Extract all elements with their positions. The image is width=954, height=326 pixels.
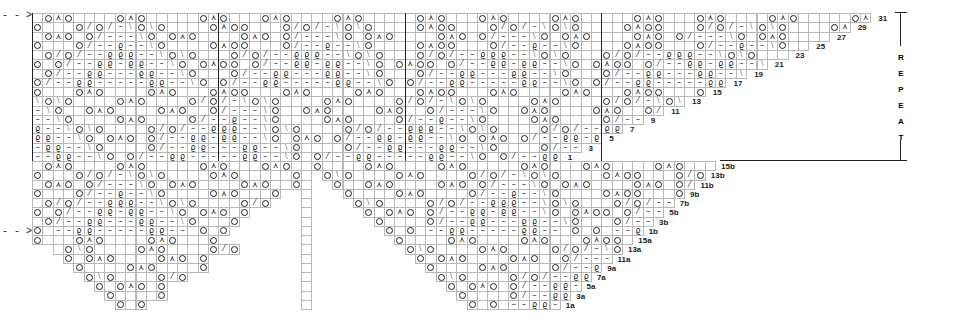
purl-stitch-icon: – — [570, 143, 581, 153]
yarn-over-stitch-icon — [694, 87, 705, 97]
row-label: 13b — [711, 171, 725, 180]
double-decrease-stitch-icon: ⋏ — [839, 22, 850, 32]
yarn-over-stitch-icon — [198, 263, 209, 273]
twisted-stitch-stitch-icon: ϱ — [591, 263, 602, 273]
yarn-over-stitch-icon — [239, 207, 250, 217]
k2tog-stitch-icon: ⁄ — [653, 106, 664, 116]
row-label: 1b — [649, 227, 658, 236]
yarn-over-stitch-icon — [270, 189, 281, 199]
yarn-over-stitch-icon — [136, 300, 147, 310]
row-label: 31 — [878, 14, 887, 23]
knit-stitch-icon — [798, 41, 809, 51]
ssk-stitch-icon: ⧵ — [736, 69, 747, 79]
row-label: 23 — [796, 51, 805, 60]
row-label: 11 — [671, 107, 679, 116]
row-label: 13a — [628, 245, 641, 254]
row-label: 9a — [607, 264, 616, 273]
double-decrease-stitch-icon: ⋏ — [860, 13, 871, 23]
yarn-over-stitch-icon — [229, 244, 240, 254]
row-label: 15a — [638, 236, 651, 245]
row-label: 11a — [618, 255, 631, 264]
repeat-bracket: REPEAT — [895, 12, 907, 160]
row-label: 15 — [713, 88, 722, 97]
repeat-end-rule — [720, 160, 905, 161]
row-label: 5b — [669, 208, 678, 217]
yarn-over-stitch-icon — [260, 198, 271, 208]
yarn-over-stitch-icon — [156, 291, 167, 301]
row-label: 11b — [700, 181, 713, 190]
twisted-stitch-stitch-icon: ϱ — [715, 78, 726, 88]
start-arrow-bottom: - - > — [2, 226, 32, 237]
ssk-stitch-icon: ⧵ — [757, 59, 768, 69]
row-label: 5a — [587, 282, 596, 291]
yarn-over-stitch-icon — [612, 244, 623, 254]
yarn-over-stitch-icon — [177, 272, 188, 282]
k2tog-stitch-icon: ⁄ — [684, 180, 695, 190]
repeat-boundary — [218, 13, 219, 161]
repeat-boundary — [32, 13, 33, 161]
purl-stitch-icon: – — [550, 300, 561, 310]
knit-stitch-icon — [819, 32, 830, 42]
row-label: 7 — [630, 125, 634, 134]
row-label: 15b — [721, 162, 735, 171]
row-label: 25 — [816, 42, 825, 51]
row-label: 3a — [576, 292, 585, 301]
purl-stitch-icon: – — [570, 281, 581, 291]
knit-stitch-icon — [705, 161, 716, 171]
purl-stitch-icon: – — [601, 254, 612, 264]
twisted-stitch-stitch-icon: ϱ — [612, 124, 623, 134]
row-label: 13 — [692, 97, 701, 106]
ssk-stitch-icon: ⧵ — [674, 96, 685, 106]
purl-stitch-icon: – — [643, 217, 654, 227]
yarn-over-stitch-icon — [218, 226, 229, 236]
knit-stitch-icon — [301, 300, 312, 310]
row-label: 7b — [680, 199, 689, 208]
repeat-label: REPEAT — [895, 50, 907, 146]
yarn-over-stitch-icon — [229, 217, 240, 227]
purl-stitch-icon: – — [653, 207, 664, 217]
purl-stitch-icon: – — [632, 115, 643, 125]
row-label: 3b — [659, 218, 668, 227]
repeat-boundary — [405, 13, 406, 161]
repeat-arrow-up — [900, 12, 901, 46]
twisted-stitch-stitch-icon: ϱ — [632, 226, 643, 236]
yarn-over-stitch-icon — [694, 170, 705, 180]
repeat-boundary — [601, 13, 602, 161]
purl-stitch-icon: – — [663, 198, 674, 208]
row-label: 19 — [754, 70, 763, 79]
row-label: 1a — [566, 301, 575, 310]
repeat-arrow-down — [900, 140, 901, 160]
knit-stitch-icon — [777, 50, 788, 60]
row-label: 7a — [597, 273, 606, 282]
row-label: 5 — [609, 134, 613, 143]
knitting-chart: - - > - - > ⋏⋏⋏⋏⋏⋏⋏⋏⋏⋏⋏⋏⁄⁄–⧵⧵⋏⁄⁄–⧵⧵⋏⁄⁄–⧵… — [0, 0, 954, 326]
row-label: 9 — [651, 116, 655, 125]
twisted-stitch-stitch-icon: ϱ — [581, 272, 592, 282]
row-label: 29 — [858, 23, 867, 32]
row-label: 9b — [690, 190, 699, 199]
row-label: 17 — [733, 79, 742, 88]
yarn-over-stitch-icon — [674, 189, 685, 199]
row-label: 27 — [837, 33, 846, 42]
knit-stitch-icon — [622, 235, 633, 245]
row-label: 3 — [589, 144, 593, 153]
start-arrow-top: - - > — [2, 10, 32, 21]
row-label: 21 — [775, 60, 784, 69]
row-label: 1 — [568, 153, 572, 162]
twisted-stitch-stitch-icon: ϱ — [560, 291, 571, 301]
